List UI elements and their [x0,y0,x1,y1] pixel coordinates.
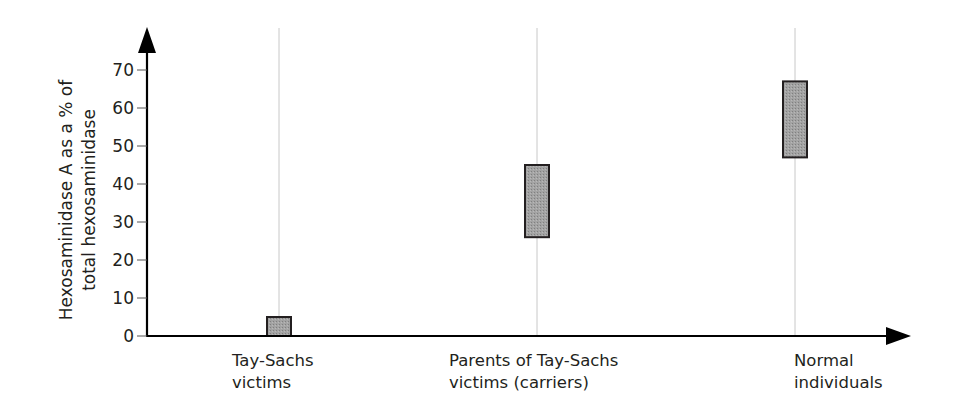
x-axis-arrow-icon [886,327,911,345]
y-tick-label: 50 [112,136,134,156]
y-tick-label: 60 [112,98,134,118]
y-axis [138,27,156,336]
range-bar [783,81,807,157]
y-axis-arrow-icon [138,27,156,53]
category-label-line: victims (carriers) [449,372,618,394]
y-tick-label: 40 [112,174,134,194]
y-tick-label: 70 [112,60,134,80]
range-bar [267,317,291,336]
y-tick-label: 20 [112,250,134,270]
category-label-line: victims [232,372,314,394]
category-label-line: Normal [794,350,883,372]
category-label-line: individuals [794,372,883,394]
y-axis-ticks: 010203040506070 [112,60,147,346]
category-label: Normalindividuals [794,350,883,394]
category-label: Tay-Sachsvictims [232,350,314,394]
y-tick-label: 30 [112,212,134,232]
category-label-line: Tay-Sachs [232,350,314,372]
range-bar [525,165,549,237]
y-axis-label-line-2: total hexosaminidase [79,109,99,291]
category-label: Parents of Tay-Sachsvictims (carriers) [449,350,618,394]
category-label-line: Parents of Tay-Sachs [449,350,618,372]
y-axis-label-line-1: Hexosaminidase A as a % of [56,79,76,320]
y-tick-label: 10 [112,288,134,308]
y-tick-label: 0 [123,326,134,346]
x-axis [146,327,911,345]
